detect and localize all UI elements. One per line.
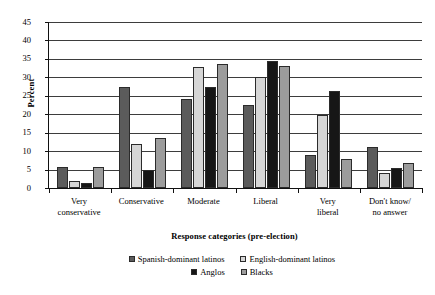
x-tick-mark — [49, 188, 50, 193]
x-tick-mark — [298, 188, 299, 193]
bar — [205, 87, 216, 188]
bar — [193, 67, 204, 188]
bar — [279, 66, 290, 188]
legend-row: Spanish-dominant latinosEnglish-dominant… — [108, 252, 356, 265]
bar — [379, 173, 390, 188]
x-tick-mark — [111, 188, 112, 193]
bar — [69, 181, 80, 188]
bar — [391, 168, 402, 188]
x-axis-label: Conservative — [110, 196, 172, 230]
y-tick-label: 20 — [0, 110, 31, 119]
legend-swatch-icon — [240, 256, 246, 262]
bar-group — [49, 22, 111, 188]
bar — [93, 167, 104, 188]
x-axis-label-line: Very — [297, 196, 359, 207]
bar — [143, 170, 154, 188]
x-tick-mark — [236, 188, 237, 193]
legend-label: Blacks — [250, 267, 273, 277]
legend-item[interactable]: Spanish-dominant latinos — [129, 254, 225, 264]
bar — [305, 155, 316, 188]
legend-label: English-dominant latinos — [249, 254, 335, 264]
bar — [329, 91, 340, 188]
legend-swatch-icon — [241, 269, 247, 275]
bar — [181, 99, 192, 188]
bar — [155, 138, 166, 188]
y-tick-label: 30 — [0, 73, 31, 82]
x-axis-label: Moderate — [172, 196, 234, 230]
x-axis-label-line: Conservative — [110, 196, 172, 207]
x-axis-label-line: Moderate — [172, 196, 234, 207]
y-tick-label: 0 — [0, 184, 31, 193]
legend-item[interactable]: English-dominant latinos — [240, 254, 335, 264]
bar — [81, 183, 92, 188]
bar — [367, 147, 378, 188]
bar — [243, 105, 254, 188]
x-tick-mark — [422, 188, 423, 193]
y-tick-label: 35 — [0, 54, 31, 63]
y-tick-label: 40 — [0, 36, 31, 45]
y-tick-label: 25 — [0, 91, 31, 100]
legend-swatch-icon — [129, 256, 135, 262]
bar-chart-figure: Percent 454035302520151050 Veryconservat… — [0, 0, 435, 295]
x-axis-label: Don't know/no answer — [359, 196, 421, 230]
bar-group — [298, 22, 360, 188]
chart-legend: Spanish-dominant latinosEnglish-dominant… — [108, 252, 356, 278]
x-axis-label-line: no answer — [359, 207, 421, 218]
bar — [317, 115, 328, 188]
bar-group — [111, 22, 173, 188]
x-tick-mark — [360, 188, 361, 193]
legend-label: Spanish-dominant latinos — [138, 254, 225, 264]
x-axis-label-line: liberal — [297, 207, 359, 218]
plot-area: 454035302520151050 — [48, 22, 421, 188]
bar — [217, 64, 228, 188]
x-axis-label: Veryconservative — [48, 196, 110, 230]
x-axis-label-line: conservative — [48, 207, 110, 218]
bar — [119, 87, 130, 188]
bar-group — [360, 22, 422, 188]
legend-row: AnglosBlacks — [108, 265, 356, 278]
legend-item[interactable]: Blacks — [241, 267, 273, 277]
legend-label: Anglos — [200, 267, 225, 277]
bar-group — [236, 22, 298, 188]
legend-swatch-icon — [191, 269, 197, 275]
x-axis-label: Veryliberal — [297, 196, 359, 230]
x-axis-label-line: Don't know/ — [359, 196, 421, 207]
bar — [57, 167, 68, 188]
y-tick-label: 45 — [0, 18, 31, 27]
bar — [267, 61, 278, 188]
x-axis-label: Liberal — [235, 196, 297, 230]
x-axis-label-line: Very — [48, 196, 110, 207]
bar — [403, 163, 414, 188]
x-axis-label-line: Liberal — [235, 196, 297, 207]
x-tick-mark — [173, 188, 174, 193]
y-tick-label: 15 — [0, 128, 31, 137]
bar-groups — [49, 22, 422, 188]
bar — [255, 77, 266, 188]
bar — [341, 159, 352, 188]
y-tick-label: 10 — [0, 147, 31, 156]
x-axis-category-labels: VeryconservativeConservativeModerateLibe… — [48, 196, 421, 230]
x-axis-title: Response categories (pre-election) — [48, 231, 421, 241]
y-tick-label: 5 — [0, 165, 31, 174]
bar-group — [173, 22, 235, 188]
bar — [131, 144, 142, 188]
legend-item[interactable]: Anglos — [191, 267, 225, 277]
